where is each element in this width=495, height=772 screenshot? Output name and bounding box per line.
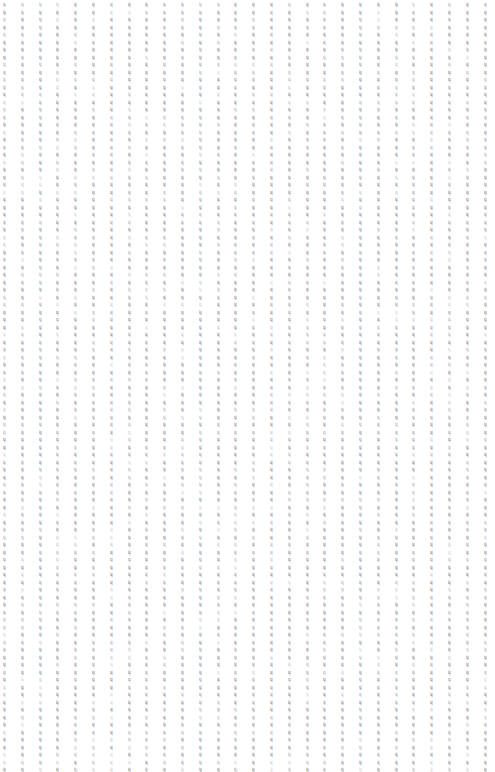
tiny-glyph-mark: ɥ [181,518,183,526]
tiny-glyph-mark: ɥ [252,293,254,301]
tiny-glyph-mark: ɥ [199,683,201,691]
tiny-glyph-mark: ɥ [128,53,130,61]
tiny-glyph-mark: ɥ [270,188,272,196]
tiny-glyph-mark: ɥ [21,180,23,188]
glyph-row: ɥɥɥɥɥɥɥɥɥɥɥɥɥɥɥɥɥɥɥɥɥɥɥɥɥɥɥɥ [0,53,495,61]
tiny-glyph-mark: ɥ [92,8,94,16]
tiny-glyph-mark: ɥ [163,675,165,683]
tiny-glyph-mark: ɥ [145,135,147,143]
glyph-row: ɥɥɥɥɥɥɥɥɥɥɥɥɥɥɥɥɥɥɥɥɥɥɥɥɥɥɥɥ [0,30,495,38]
tiny-glyph-mark: ɥ [217,458,219,466]
tiny-glyph-mark: ɥ [377,180,379,188]
tiny-glyph-mark: ɥ [412,105,414,113]
tiny-glyph-mark: ɥ [39,510,41,518]
tiny-glyph-mark: ɥ [377,668,379,676]
tiny-glyph-mark: ɥ [234,473,236,481]
tiny-glyph-mark: ɥ [128,510,130,518]
tiny-glyph-mark: ɥ [217,600,219,608]
tiny-glyph-mark: ɥ [341,450,343,458]
tiny-glyph-mark: ɥ [430,0,432,8]
tiny-glyph-mark: ɥ [359,428,361,436]
tiny-glyph-mark: ɥ [377,630,379,638]
tiny-glyph-mark: ɥ [484,255,486,263]
tiny-glyph-mark: ɥ [341,593,343,601]
tiny-glyph-mark: ɥ [270,255,272,263]
tiny-glyph-mark: ɥ [252,255,254,263]
tiny-glyph-mark: ɥ [181,203,183,211]
tiny-glyph-mark: ɥ [323,255,325,263]
tiny-glyph-mark: ɥ [359,473,361,481]
tiny-glyph-mark: ɥ [128,300,130,308]
tiny-glyph-mark: ɥ [234,173,236,181]
tiny-glyph-mark: ɥ [217,705,219,713]
tiny-glyph-mark: ɥ [448,150,450,158]
tiny-glyph-mark: ɥ [484,345,486,353]
tiny-glyph-mark: ɥ [252,68,254,76]
tiny-glyph-mark: ɥ [39,338,41,346]
tiny-glyph-mark: ɥ [430,195,432,203]
tiny-glyph-mark: ɥ [323,518,325,526]
tiny-glyph-mark: ɥ [341,15,343,23]
tiny-glyph-mark: ɥ [234,548,236,556]
tiny-glyph-mark: ɥ [484,473,486,481]
tiny-glyph-mark: ɥ [323,113,325,121]
tiny-glyph-mark: ɥ [484,548,486,556]
tiny-glyph-mark: ɥ [56,233,58,241]
tiny-glyph-mark: ɥ [412,548,414,556]
tiny-glyph-mark: ɥ [39,120,41,128]
tiny-glyph-mark: ɥ [430,683,432,691]
tiny-glyph-mark: ɥ [306,540,308,548]
tiny-glyph-mark: ɥ [412,720,414,728]
tiny-glyph-mark: ɥ [412,188,414,196]
tiny-glyph-mark: ɥ [430,113,432,121]
tiny-glyph-mark: ɥ [56,165,58,173]
tiny-glyph-mark: ɥ [323,413,325,421]
tiny-glyph-mark: ɥ [74,83,76,91]
tiny-glyph-mark: ɥ [252,443,254,451]
tiny-glyph-mark: ɥ [412,420,414,428]
tiny-glyph-mark: ɥ [412,578,414,586]
tiny-glyph-mark: ɥ [252,203,254,211]
tiny-glyph-mark: ɥ [163,450,165,458]
tiny-glyph-mark: ɥ [56,638,58,646]
tiny-glyph-mark: ɥ [181,278,183,286]
tiny-glyph-mark: ɥ [74,300,76,308]
tiny-glyph-mark: ɥ [252,98,254,106]
tiny-glyph-mark: ɥ [56,180,58,188]
tiny-glyph-mark: ɥ [306,473,308,481]
tiny-glyph-mark: ɥ [466,563,468,571]
tiny-glyph-mark: ɥ [21,465,23,473]
tiny-glyph-mark: ɥ [3,705,5,713]
tiny-glyph-mark: ɥ [74,75,76,83]
tiny-glyph-mark: ɥ [341,90,343,98]
tiny-glyph-mark: ɥ [288,83,290,91]
tiny-glyph-mark: ɥ [39,285,41,293]
tiny-glyph-mark: ɥ [3,713,5,721]
tiny-glyph-mark: ɥ [181,368,183,376]
tiny-glyph-mark: ɥ [163,300,165,308]
tiny-glyph-mark: ɥ [412,495,414,503]
tiny-glyph-mark: ɥ [199,713,201,721]
tiny-glyph-mark: ɥ [56,30,58,38]
tiny-glyph-mark: ɥ [412,428,414,436]
glyph-row: ɥɥɥɥɥɥɥɥɥɥɥɥɥɥɥɥɥɥɥɥɥɥɥɥɥɥɥɥ [0,638,495,646]
tiny-glyph-mark: ɥ [74,653,76,661]
tiny-glyph-mark: ɥ [359,323,361,331]
tiny-glyph-mark: ɥ [199,323,201,331]
tiny-glyph-mark: ɥ [395,135,397,143]
tiny-glyph-mark: ɥ [145,105,147,113]
tiny-glyph-mark: ɥ [412,533,414,541]
tiny-glyph-mark: ɥ [288,300,290,308]
tiny-glyph-mark: ɥ [56,750,58,758]
tiny-glyph-mark: ɥ [145,705,147,713]
tiny-glyph-mark: ɥ [74,518,76,526]
tiny-glyph-mark: ɥ [163,188,165,196]
tiny-glyph-mark: ɥ [234,38,236,46]
tiny-glyph-mark: ɥ [39,270,41,278]
tiny-glyph-mark: ɥ [128,615,130,623]
tiny-glyph-mark: ɥ [466,533,468,541]
tiny-glyph-mark: ɥ [323,293,325,301]
tiny-glyph-mark: ɥ [3,675,5,683]
tiny-glyph-mark: ɥ [306,428,308,436]
tiny-glyph-mark: ɥ [466,548,468,556]
